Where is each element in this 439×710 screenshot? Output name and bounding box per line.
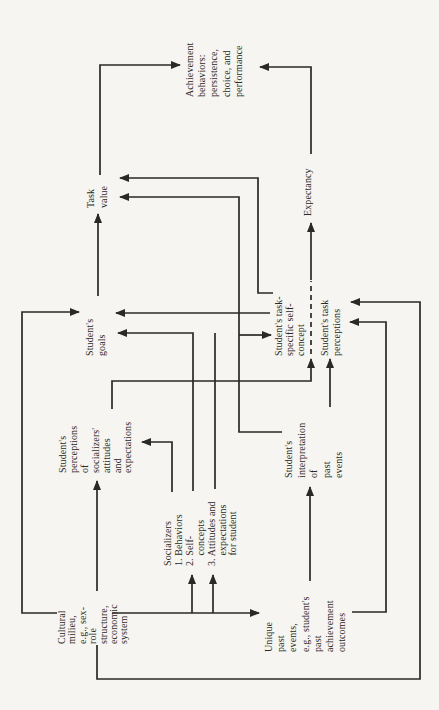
arrow-self-concept-to-task-value — [120, 178, 273, 293]
arrow-perceptions-to-self-concept-boundary — [112, 359, 311, 409]
node-achievement-behaviors: Achievement behaviors: persistence, choi… — [184, 43, 245, 97]
node-cultural-milieu: Cultural milieu, e.g., sex- role structu… — [57, 604, 130, 644]
node-task-perceptions: Student's task perceptions — [319, 300, 342, 356]
node-student-perceptions: Student's perceptions of socializers' at… — [58, 422, 134, 473]
arrow-task-value-to-achievement — [100, 65, 180, 175]
arrow-cultural-to-task-perceptions-loop — [97, 302, 420, 679]
node-unique-past-events: Unique past events, e.g., student's past… — [263, 596, 348, 652]
arrow-socializers-to-perceptions — [142, 442, 172, 492]
diagram-stage: Cultural milieu, e.g., sex- role structu… — [0, 0, 439, 710]
scanned-figure-page: Cultural milieu, e.g., sex- role structu… — [0, 0, 439, 710]
arrow-expectancy-to-achievement — [260, 67, 311, 154]
node-socializers: Socializers 1. Behaviors 2. Self- concep… — [163, 501, 239, 566]
node-student-interpretation: Student's interpretation of past events — [283, 423, 346, 478]
node-expectancy: Expectancy — [302, 168, 313, 216]
node-student-goals: Student's goals — [84, 319, 107, 356]
node-task-specific-self-concept: Student's task- specific self- concept — [273, 296, 307, 356]
arrow-unique-to-task-perceptions-loop — [350, 322, 386, 612]
node-task-value: Task value — [85, 186, 110, 208]
